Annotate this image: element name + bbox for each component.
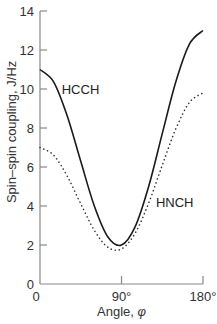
x-tick-label: 0 bbox=[32, 289, 39, 304]
phi-symbol: φ bbox=[138, 304, 147, 319]
curves bbox=[40, 30, 203, 250]
x-axis-title: Angle, φ bbox=[97, 304, 146, 319]
series-label-hcch: HCCH bbox=[62, 82, 100, 97]
y-tick-label: 10 bbox=[20, 82, 34, 97]
y-tick-label: 8 bbox=[27, 121, 34, 136]
karplus-chart: 02468101214 090°180° HCCHHNCH Spin–spin … bbox=[0, 0, 217, 324]
y-tick-label: 14 bbox=[20, 4, 34, 19]
series-line-hcch bbox=[40, 31, 203, 246]
y-tick-label: 4 bbox=[27, 199, 34, 214]
x-ticks: 090°180° bbox=[32, 276, 216, 304]
axes bbox=[40, 11, 203, 284]
y-tick-label: 12 bbox=[20, 43, 34, 58]
series-labels: HCCHHNCH bbox=[62, 82, 194, 210]
x-tick-label: 90° bbox=[112, 289, 132, 304]
y-tick-label: 6 bbox=[27, 160, 34, 175]
y-tick-label: 2 bbox=[27, 238, 34, 253]
series-label-hnch: HNCH bbox=[156, 195, 194, 210]
y-axis-title: Spin–spin coupling, J/Hz bbox=[4, 61, 19, 203]
x-tick-label: 180° bbox=[190, 289, 217, 304]
y-ticks: 02468101214 bbox=[20, 4, 47, 292]
series-line-hnch bbox=[40, 93, 203, 250]
